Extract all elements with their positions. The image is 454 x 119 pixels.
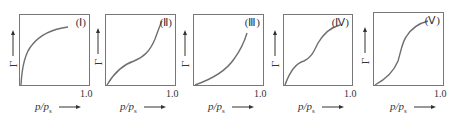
y-axis-label: Γ — [360, 27, 370, 67]
panel-label: (Ⅰ) — [76, 16, 86, 29]
x-axis-arrow-icon — [59, 104, 81, 110]
panel-type-iv: Γ (Ⅳ) 1.0 p/ps — [270, 0, 362, 119]
plot-frame: (Ⅴ) — [373, 12, 444, 86]
panel-label: (Ⅲ) — [245, 16, 260, 29]
plot-frame: (Ⅰ) — [19, 14, 90, 86]
x-axis-label: p/ps — [208, 100, 254, 115]
y-axis-arrow-icon: Γ — [360, 27, 370, 67]
y-axis-label: Γ — [180, 30, 190, 70]
panel-type-iii: Γ (Ⅲ) 1.0 p/ps — [180, 0, 272, 119]
x-axis-label: p/ps — [390, 100, 436, 115]
x-tick-end: 1.0 — [254, 88, 267, 99]
plot-frame: (Ⅱ) — [105, 14, 176, 86]
x-tick-end: 1.0 — [434, 88, 447, 99]
x-axis-arrow-icon — [414, 104, 436, 110]
y-axis-gamma: Γ — [7, 61, 19, 67]
x-axis-label: p/ps — [298, 100, 344, 115]
panel-type-i: Γ (Ⅰ) 1.0 p/ps — [0, 0, 90, 119]
panel-label: (Ⅳ) — [332, 16, 349, 29]
panel-type-ii: Γ (Ⅱ) 1.0 p/ps — [90, 0, 180, 119]
x-axis-arrow-icon — [322, 104, 344, 110]
x-tick-end: 1.0 — [344, 88, 357, 99]
y-axis-gamma: Γ — [92, 59, 104, 65]
plot-frame: (Ⅳ) — [283, 14, 353, 86]
x-tick-end: 1.0 — [166, 88, 179, 99]
panel-type-v: Γ (Ⅴ) 1.0 p/ps — [358, 0, 454, 119]
y-axis-label: Γ — [270, 30, 280, 70]
panel-label: (Ⅱ) — [160, 16, 172, 29]
y-axis-label: Γ — [8, 30, 18, 70]
y-axis-arrow-icon: Γ — [93, 28, 103, 68]
x-axis-label: p/ps — [120, 100, 166, 115]
y-axis-arrow-icon: Γ — [180, 30, 190, 70]
x-axis-label: p/ps — [35, 100, 81, 115]
x-axis-arrow-icon — [232, 104, 254, 110]
y-axis-gamma: Γ — [359, 58, 371, 64]
plot-frame: (Ⅲ) — [193, 14, 264, 86]
y-axis-arrow-icon: Γ — [8, 30, 18, 70]
y-axis-gamma: Γ — [179, 61, 191, 67]
x-axis-arrow-icon — [144, 104, 166, 110]
panel-label: (Ⅴ) — [425, 14, 440, 27]
y-axis-label: Γ — [93, 28, 103, 68]
y-axis-gamma: Γ — [269, 61, 281, 67]
y-axis-arrow-icon: Γ — [270, 30, 280, 70]
